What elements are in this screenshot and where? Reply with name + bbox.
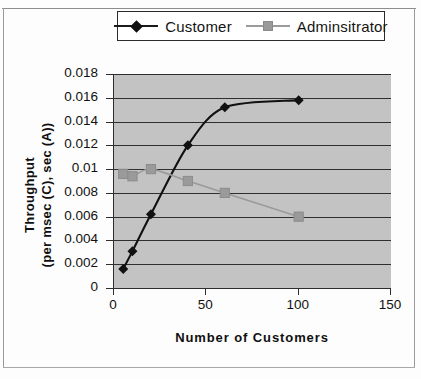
y-axis-tick (106, 217, 113, 218)
y-axis-title-line1: Throughput (21, 95, 38, 295)
y-axis-title: Throughput (per msec (C), sec (A)) (21, 95, 55, 295)
y-axis-line (113, 74, 114, 289)
y-axis-tick (106, 240, 113, 241)
series-line (123, 169, 298, 217)
y-axis-tick (106, 169, 113, 170)
x-axis-tick (390, 288, 391, 295)
figure-border-right (414, 8, 415, 368)
data-point-square (220, 188, 229, 197)
x-axis-tick (113, 288, 114, 295)
chart-figure: Customer Adminsitrator Throughput (per m… (0, 0, 421, 379)
diamond-marker-icon (130, 20, 143, 33)
y-axis-tick (106, 288, 113, 289)
y-axis-tick (106, 98, 113, 99)
data-point-diamond (294, 95, 304, 105)
x-axis-title: Number of Customers (113, 330, 391, 345)
series-line (123, 100, 298, 269)
data-point-diamond (220, 102, 230, 112)
y-axis-tick (106, 193, 113, 194)
square-marker-icon (263, 21, 273, 31)
legend-entry-customer: Customer (114, 18, 232, 35)
data-point-square (128, 172, 137, 181)
x-axis-tick (298, 288, 299, 295)
legend-label-customer: Customer (165, 18, 232, 35)
series-layer (114, 74, 391, 288)
series-customer (118, 95, 303, 274)
y-axis-tick (106, 264, 113, 265)
chart-legend: Customer Adminsitrator (117, 11, 385, 41)
data-point-square (119, 169, 128, 178)
legend-label-administrator: Adminsitrator (297, 18, 388, 35)
x-axis-tick-label: 150 (365, 297, 415, 312)
x-axis-tick-label: 100 (273, 297, 323, 312)
plot-area (113, 74, 391, 288)
data-point-diamond (118, 264, 128, 274)
y-axis-tick (106, 122, 113, 123)
figure-border-bottom (3, 367, 415, 368)
data-point-square (183, 176, 192, 185)
series-administrator (119, 165, 304, 222)
data-point-diamond (146, 209, 156, 219)
figure-border-left (3, 8, 4, 368)
x-axis-tick (205, 288, 206, 295)
x-axis-line (113, 288, 391, 289)
data-point-square (294, 212, 303, 221)
data-point-square (146, 165, 155, 174)
x-axis-tick-label: 50 (180, 297, 230, 312)
figure-border-top (2, 8, 416, 9)
data-point-diamond (127, 246, 137, 256)
y-axis-tick (106, 145, 113, 146)
y-axis-title-line2: (per msec (C), sec (A)) (38, 95, 55, 295)
x-axis-tick-label: 0 (88, 297, 138, 312)
legend-entry-administrator: Adminsitrator (246, 18, 388, 35)
y-axis-tick (106, 74, 113, 75)
